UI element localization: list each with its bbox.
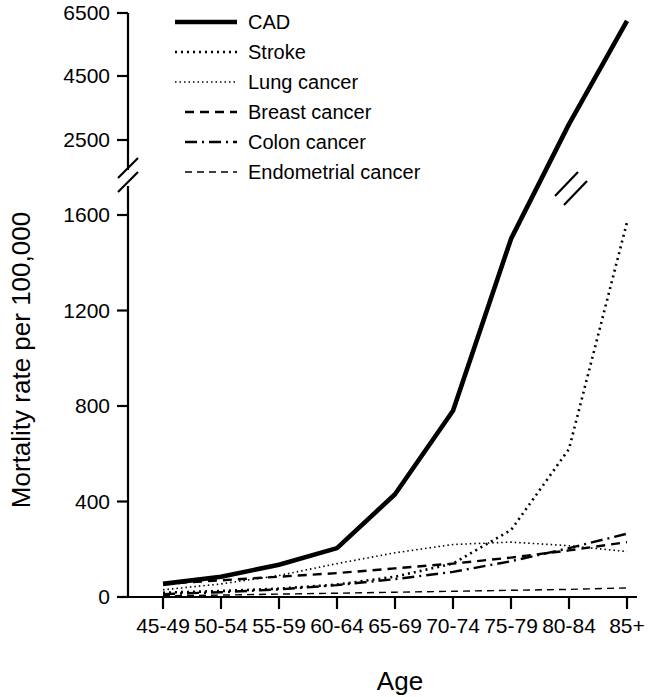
legend-label: CAD [248,11,290,33]
x-axis-tick-label: 65-69 [368,614,422,637]
y-axis-tick-label: 1600 [63,203,110,226]
chart-legend: CADStrokeLung cancerBreast cancerColon c… [175,11,421,183]
y-axis-title-text: Mortality rate per 100,000 [6,212,36,508]
legend-item-stroke[interactable]: Stroke [175,41,306,63]
y-axis-tick-label: 4500 [63,64,110,87]
x-axis-tick-label: 60-64 [310,614,364,637]
y-axis-tick-label: 0 [98,585,110,608]
line-chart: Mortality rate per 100,000 Age 040080012… [0,0,652,697]
series-line-stroke [163,222,627,593]
y-axis-tick-label: 800 [75,394,110,417]
legend-item-colon-cancer[interactable]: Colon cancer [185,131,366,153]
y-axis-title: Mortality rate per 100,000 [6,212,36,508]
series-line-lung-cancer [163,542,627,590]
legend-label: Breast cancer [248,101,372,123]
legend-label: Colon cancer [248,131,366,153]
legend-label: Lung cancer [248,71,358,93]
series-line-colon-cancer [163,534,627,594]
x-axis-ticks [163,597,627,609]
legend-item-breast-cancer[interactable]: Breast cancer [185,101,372,123]
y-axis-tick-label: 400 [75,490,110,513]
legend-item-endometrial-cancer[interactable]: Endometrial cancer [185,161,421,183]
x-axis-tick-label: 55-59 [252,614,306,637]
x-axis-tick-label: 80-84 [542,614,596,637]
x-axis-tick-label: 50-54 [194,614,248,637]
y-axis-tick-labels: 040080012001600250045006500 [63,1,110,608]
series-layer [163,21,627,596]
legend-item-cad[interactable]: CAD [175,11,290,33]
x-axis-title-text: Age [377,666,423,696]
y-axis-ticks [117,13,128,597]
y-axis-tick-label: 2500 [63,128,110,151]
series-line-breast-cancer [163,542,627,584]
legend-item-lung-cancer[interactable]: Lung cancer [175,71,358,93]
x-axis-tick-labels: 45-4950-5455-5960-6465-6970-7475-7980-84… [136,614,645,637]
series-line-endometrial-cancer [163,588,627,596]
x-axis-tick-label: 70-74 [426,614,480,637]
y-axis-tick-label: 1200 [63,299,110,322]
x-axis-tick-label: 75-79 [484,614,538,637]
y-axis-tick-label: 6500 [63,1,110,24]
series-line-cad [163,21,627,584]
x-axis-tick-label: 85+ [609,614,645,637]
cad-line-break-icon [555,172,587,205]
x-axis-tick-label: 45-49 [136,614,190,637]
mortality-rate-figure: Mortality rate per 100,000 Age 040080012… [0,0,652,697]
legend-label: Stroke [248,41,306,63]
legend-label: Endometrial cancer [248,161,421,183]
